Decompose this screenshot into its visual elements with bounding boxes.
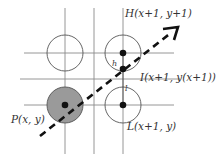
label-l: l <box>125 84 128 93</box>
point-L-dot <box>120 102 127 109</box>
label-h: h <box>112 59 117 68</box>
point-P-dot <box>62 102 69 109</box>
label-P: P(x, y) <box>10 113 45 125</box>
label-L: L(x+1, y) <box>126 120 176 132</box>
label-H: H(x+1, y+1) <box>124 7 192 19</box>
bresenham-pixel-diagram: H(x+1, y+1) I(x+1, y(x+1)) P(x, y) L(x+1… <box>0 0 220 160</box>
point-H-dot <box>120 50 127 57</box>
label-I: I(x+1, y(x+1)) <box>139 71 216 83</box>
